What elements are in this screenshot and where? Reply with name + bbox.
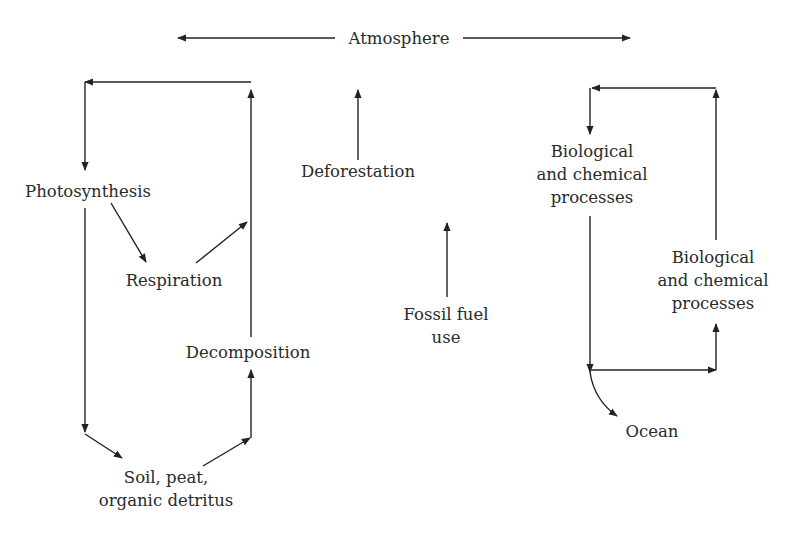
soil-label-line1: Soil, peat, [99,466,233,489]
bio-chem-1-line3: processes [536,186,647,209]
photosynthesis-to-respiration-arrow [111,203,146,262]
bio-chem-1-line1: Biological [536,140,647,163]
soil-label-line2: organic detritus [99,489,233,512]
fossil-fuel-label-line2: use [404,326,489,349]
bio-chem-2-line3: processes [657,292,768,315]
carbon-cycle-diagram: Atmosphere Photosynthesis Respiration De… [0,0,791,538]
bio-chem-1-line2: and chemical [536,163,647,186]
bio-chem-2-line2: and chemical [657,269,768,292]
respiration-label: Respiration [126,269,223,292]
deforestation-label: Deforestation [301,160,415,183]
to-ocean-arrow [590,372,617,416]
atmosphere-label: Atmosphere [349,27,450,50]
respiration-to-up-arrow [196,222,247,263]
bio-chem-2-line1: Biological [657,246,768,269]
fossil-fuel-label: Fossil fuel use [404,303,489,349]
bio-chem-processes-2-label: Biological and chemical processes [657,246,768,315]
photosynthesis-label: Photosynthesis [25,180,151,203]
bio-chem-processes-1-label: Biological and chemical processes [536,140,647,209]
soil-label: Soil, peat, organic detritus [99,466,233,512]
fossil-fuel-label-line1: Fossil fuel [404,303,489,326]
to-soil-arrow [85,434,122,458]
ocean-label: Ocean [626,420,679,443]
decomposition-label: Decomposition [186,341,311,364]
soil-to-right-arrow [203,438,250,466]
